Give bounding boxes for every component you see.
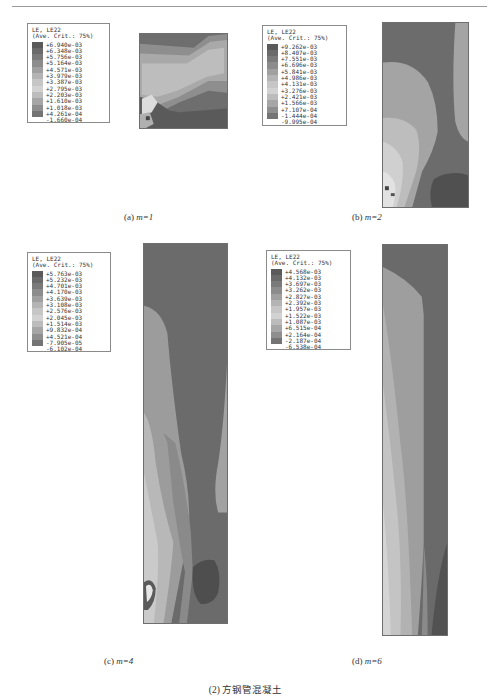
legend-subtitle: (Ave. Crit.: 75%)	[267, 35, 342, 41]
caption-b: (b) m=2	[352, 212, 382, 222]
legend-swatch	[267, 119, 278, 125]
caption-d-param: m=6	[365, 656, 382, 666]
caption-b-param: m=2	[365, 212, 382, 222]
legend-value: -6.538e-04	[285, 344, 321, 350]
legend-scale: +6.940e-03+6.348e-03+5.756e-03+5.164e-03…	[32, 42, 105, 124]
caption-b-label: (b)	[352, 212, 365, 222]
strain-contour-m4	[144, 244, 227, 623]
caption-a-label: (a)	[124, 212, 136, 222]
strain-contour-m2	[383, 23, 468, 207]
caption-a: (a) m=1	[124, 212, 153, 222]
caption-c: (c) m=4	[104, 656, 133, 666]
legend-d: LE, LE22 (Ave. Crit.: 75%) +4.568e-03+4.…	[266, 250, 351, 350]
caption-c-label: (c)	[104, 656, 116, 666]
legend-scale: +4.568e-03+4.132e-03+3.697e-03+3.262e-03…	[271, 269, 346, 351]
caption-c-param: m=4	[116, 656, 133, 666]
legend-b: LE, LE22 (Ave. Crit.: 75%) +9.262e-03+8.…	[262, 25, 347, 126]
legend-value: -1.660e-04	[46, 117, 82, 123]
contour-plot-a	[139, 33, 228, 129]
legend-value: -9.995e-04	[281, 119, 317, 125]
caption-d-label: (d)	[352, 656, 365, 666]
legend-subtitle: (Ave. Crit.: 75%)	[32, 262, 106, 268]
legend-value: -6.102e-04	[46, 346, 82, 352]
contour-plot-d	[382, 244, 448, 636]
legend-subtitle: (Ave. Crit.: 75%)	[271, 260, 346, 266]
strain-contour-m6	[383, 245, 447, 635]
legend-swatch	[271, 344, 282, 350]
header-rule	[12, 6, 487, 7]
caption-a-param: m=1	[136, 212, 153, 222]
contour-plot-c	[143, 243, 228, 624]
legend-row: -9.995e-04	[267, 119, 342, 125]
legend-subtitle: (Ave. Crit.: 75%)	[32, 33, 105, 39]
legend-swatch	[32, 346, 43, 352]
legend-c: LE, LE22 (Ave. Crit.: 75%) +5.763e-03+5.…	[27, 252, 111, 352]
legend-row: -1.660e-04	[32, 117, 105, 123]
legend-scale: +5.763e-03+5.232e-03+4.701e-03+4.170e-03…	[32, 271, 106, 353]
caption-d: (d) m=6	[352, 656, 382, 666]
legend-scale: +9.262e-03+8.407e-03+7.551e-03+6.696e-03…	[267, 44, 342, 126]
legend-row: -6.538e-04	[271, 344, 346, 350]
figure-caption: (2) 方钢管混凝土	[0, 682, 491, 696]
strain-contour-m1	[140, 34, 227, 128]
contour-plot-b	[382, 22, 469, 208]
legend-swatch	[32, 117, 43, 123]
legend-row: -6.102e-04	[32, 346, 106, 352]
legend-a: LE, LE22 (Ave. Crit.: 75%) +6.940e-03+6.…	[27, 23, 110, 123]
